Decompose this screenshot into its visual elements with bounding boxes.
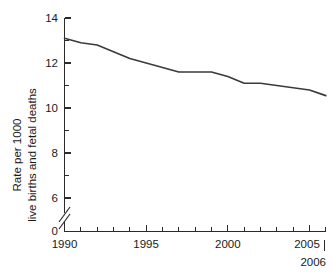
y-tick-label-6: 6 — [52, 192, 58, 204]
y-tick-label-8: 8 — [52, 147, 58, 159]
line-chart: 14 12 10 8 6 0 1990 1995 2 — [0, 0, 332, 273]
y-tick-label-0: 0 — [52, 225, 58, 237]
y-tick-label-12: 12 — [45, 57, 58, 69]
x-tick-label-1995: 1995 — [133, 238, 159, 250]
y-tick-label-10: 10 — [45, 102, 58, 114]
x-tick-label-1990: 1990 — [52, 238, 78, 250]
y-axis-label-line1: Rate per 1000 — [11, 119, 23, 192]
x-tick-label-2006: 2006 — [300, 256, 326, 268]
y-axis-label-line2: live births and fetal deaths — [26, 88, 38, 222]
y-tick-label-14: 14 — [45, 12, 58, 24]
chart-container: 14 12 10 8 6 0 1990 1995 2 — [0, 0, 332, 273]
x-tick-label-2000: 2000 — [215, 238, 241, 250]
x-tick-label-2005: 2005 — [294, 238, 320, 250]
